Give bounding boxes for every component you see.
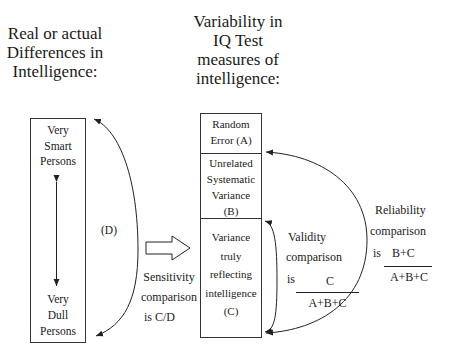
reliability-arc-icon bbox=[266, 152, 367, 333]
range-d-arc-icon bbox=[94, 119, 138, 336]
validity-arc-icon bbox=[265, 221, 277, 332]
block-arrow-right-icon bbox=[146, 236, 190, 260]
connector-overlay bbox=[0, 0, 453, 360]
